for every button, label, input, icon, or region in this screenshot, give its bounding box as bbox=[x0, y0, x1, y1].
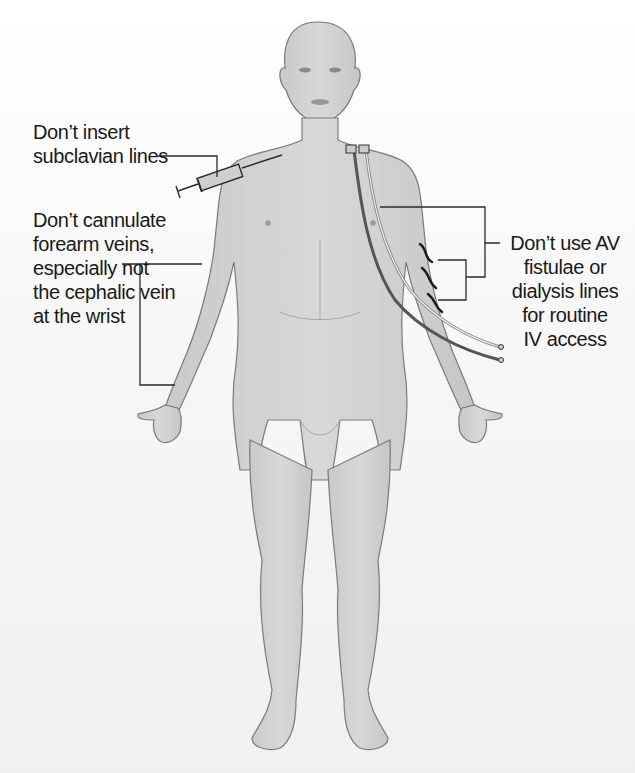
human-body-figure bbox=[0, 0, 635, 773]
subclavian-warning-label: Don’t insert subclavian lines bbox=[33, 120, 168, 168]
av-fistula-warning-label: Don’t use AV fistulae or dialysis lines … bbox=[500, 231, 630, 351]
body-silhouette bbox=[138, 22, 502, 750]
left-leg bbox=[250, 440, 312, 750]
left-hand bbox=[138, 405, 182, 443]
forearm-warning-label: Don’t cannulate forearm veins, especiall… bbox=[33, 208, 175, 328]
right-leg bbox=[328, 440, 390, 750]
right-hand bbox=[459, 405, 503, 443]
head bbox=[280, 22, 360, 122]
